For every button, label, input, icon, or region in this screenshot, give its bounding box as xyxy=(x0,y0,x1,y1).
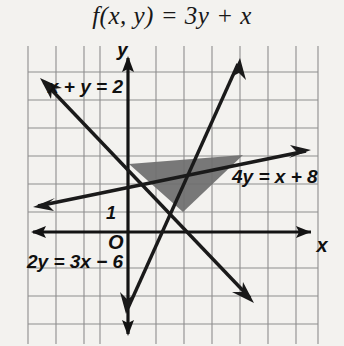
graph-svg: y x O 1 x + y = 2 4y = x + 8 2y = 3x − 6 xyxy=(0,46,344,346)
origin-label: O xyxy=(108,231,124,253)
line-label-x-plus-y: x + y = 2 xyxy=(47,76,123,97)
line-label-4y: 4y = x + 8 xyxy=(231,166,318,187)
coordinate-graph: y x O 1 x + y = 2 4y = x + 8 2y = 3x − 6 xyxy=(0,46,344,346)
x-axis-label: x xyxy=(315,234,328,256)
worksheet-figure: f(x, y) = 3y + x xyxy=(0,0,344,346)
line-label-2y: 2y = 3x − 6 xyxy=(26,251,124,272)
y-axis-label: y xyxy=(116,46,129,60)
y-tick-label-1: 1 xyxy=(106,203,116,223)
page-title: f(x, y) = 3y + x xyxy=(0,2,344,30)
